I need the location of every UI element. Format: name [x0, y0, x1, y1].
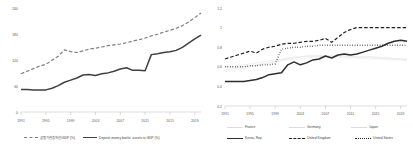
dotted-line-icon: [355, 138, 371, 139]
legend-label: 금융기관총자산/GDP (%): [40, 135, 75, 140]
right-xtick-2019: 2019: [389, 112, 413, 116]
left-xtick-1991: 1991: [9, 119, 33, 123]
legend-label: France: [245, 125, 255, 129]
right-series-korea: [225, 40, 407, 81]
left-x-ticks: [21, 112, 195, 115]
dashed-line-icon: [24, 137, 38, 138]
legend-item-united-kingdom[interactable]: United Kingdom: [289, 136, 355, 140]
right-chart-legend-row1: France Germany Japan: [227, 125, 378, 129]
dashed-line-icon: [289, 138, 305, 139]
right-ytick-0-8: 0.8: [207, 46, 222, 50]
right-xtick-2003: 2003: [288, 112, 312, 116]
legend-item-germany[interactable]: Germany: [289, 125, 351, 129]
legend-label: United Kingdom: [307, 136, 330, 140]
legend-item-japan[interactable]: Japan: [351, 125, 378, 129]
left-xtick-2015: 2015: [158, 119, 182, 123]
legend-label: Germany: [307, 125, 321, 129]
left-xtick-1995: 1995: [34, 119, 58, 123]
right-xtick-1999: 1999: [263, 112, 287, 116]
left-ytick-240: 240: [0, 7, 18, 11]
left-xtick-2011: 2011: [133, 119, 157, 123]
left-xtick-1999: 1999: [59, 119, 83, 123]
right-ytick-1: 1: [207, 26, 222, 30]
charts-container: 240 180 120 60 0 1991 1995 1999 2003 200…: [0, 0, 413, 151]
legend-label: Korea, Rep.: [245, 136, 263, 140]
left-chart-panel: 240 180 120 60 0 1991 1995 1999 2003 200…: [0, 0, 207, 151]
right-xtick-2015: 2015: [364, 112, 388, 116]
right-ytick-1-2: 1.2: [207, 7, 222, 11]
legend-item-deposit-money-banks[interactable]: Deposit money banks' assets to GDP (%): [83, 136, 160, 140]
faint-line-icon: [227, 127, 243, 128]
right-plot-area: [225, 8, 407, 120]
left-ytick-60: 60: [0, 85, 18, 89]
right-series-united-kingdom: [225, 28, 407, 59]
legend-label: Japan: [369, 125, 378, 129]
right-xtick-1991: 1991: [213, 112, 237, 116]
faint-line-icon: [289, 127, 305, 128]
left-xtick-2007: 2007: [108, 119, 132, 123]
right-xtick-2011: 2011: [339, 112, 363, 116]
right-chart-panel: 1.2 1 0.8 0.6 0.4 0.2 1991: [207, 0, 413, 151]
right-chart-legend-row2: Korea, Rep. United Kingdom United States: [227, 136, 393, 140]
left-series-financial-institution-assets: [21, 13, 201, 74]
right-x-ticks: [225, 106, 401, 109]
solid-line-icon: [227, 138, 243, 139]
right-ytick-0-2: 0.2: [207, 105, 222, 109]
legend-item-korea[interactable]: Korea, Rep.: [227, 136, 289, 140]
left-ytick-180: 180: [0, 33, 18, 37]
left-ytick-120: 120: [0, 59, 18, 63]
right-xtick-1995: 1995: [238, 112, 262, 116]
left-xtick-2019: 2019: [183, 119, 207, 123]
right-ytick-0-6: 0.6: [207, 65, 222, 69]
legend-label: Deposit money banks' assets to GDP (%): [99, 136, 160, 140]
solid-line-icon: [83, 137, 97, 138]
legend-item-united-states[interactable]: United States: [355, 136, 393, 140]
right-xtick-2007: 2007: [313, 112, 337, 116]
right-ytick-0-4: 0.4: [207, 85, 222, 89]
left-chart-legend: 금융기관총자산/GDP (%) Deposit money banks' ass…: [24, 135, 160, 140]
legend-label: United States: [373, 136, 393, 140]
faint-line-icon: [351, 127, 367, 128]
left-plot-area: [21, 8, 201, 116]
left-ytick-0: 0: [0, 111, 18, 115]
legend-item-france[interactable]: France: [227, 125, 289, 129]
legend-item-financial-institution-assets[interactable]: 금융기관총자산/GDP (%): [24, 135, 75, 140]
left-xtick-2003: 2003: [84, 119, 108, 123]
